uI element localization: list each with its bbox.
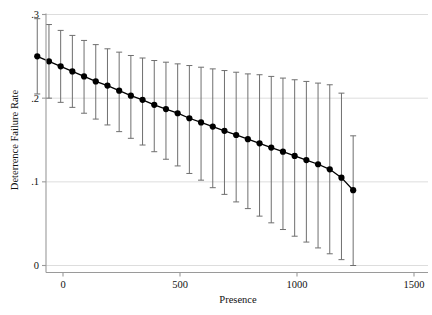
- x-tick-label-0: 0: [60, 279, 65, 290]
- y-tick-label-3: .3: [31, 9, 39, 20]
- y-tick-label-2: .2: [31, 93, 39, 104]
- data-point-marker: [350, 187, 356, 193]
- data-point-marker: [327, 166, 333, 172]
- tick-labels-group: 0.1.2.3050010001500: [31, 9, 424, 289]
- data-point-marker: [116, 88, 122, 94]
- data-point-marker: [256, 140, 262, 146]
- data-point-marker: [93, 78, 99, 84]
- error-bars-group: [34, 19, 356, 266]
- data-point-marker: [34, 53, 40, 59]
- x-axis-title: Presence: [219, 294, 257, 305]
- y-axis-title: Deterrence Failure Rate: [9, 90, 20, 191]
- data-point-marker: [81, 73, 87, 79]
- y-tick-label-0: 0: [34, 260, 39, 271]
- data-point-marker: [233, 132, 239, 138]
- data-point-marker: [163, 106, 169, 112]
- data-point-marker: [198, 119, 204, 125]
- data-point-marker: [128, 93, 134, 99]
- data-markers-group: [34, 53, 356, 193]
- x-tick-label-3: 1500: [404, 279, 425, 290]
- data-point-marker: [104, 83, 110, 89]
- data-point-marker: [186, 115, 192, 121]
- data-point-marker: [221, 128, 227, 134]
- data-point-marker: [175, 110, 181, 116]
- data-point-marker: [46, 58, 52, 64]
- data-point-marker: [151, 102, 157, 108]
- x-tick-label-2: 1000: [287, 279, 308, 290]
- axes-group: [42, 14, 428, 277]
- data-point-marker: [245, 136, 251, 142]
- data-point-marker: [58, 63, 64, 69]
- data-point-marker: [315, 161, 321, 167]
- gridlines-group: [46, 15, 428, 266]
- data-point-marker: [69, 68, 75, 74]
- data-point-marker: [139, 97, 145, 103]
- chart-container: 0.1.2.3050010001500 Presence Deterrence …: [0, 0, 432, 315]
- data-point-marker: [268, 144, 274, 150]
- data-point-marker: [210, 124, 216, 130]
- deterrence-failure-rate-chart: 0.1.2.3050010001500 Presence Deterrence …: [0, 0, 432, 315]
- data-point-marker: [280, 149, 286, 155]
- data-point-marker: [303, 157, 309, 163]
- data-point-marker: [338, 175, 344, 181]
- data-point-marker: [292, 153, 298, 159]
- y-tick-label-1: .1: [31, 176, 39, 187]
- x-tick-label-1: 500: [172, 279, 188, 290]
